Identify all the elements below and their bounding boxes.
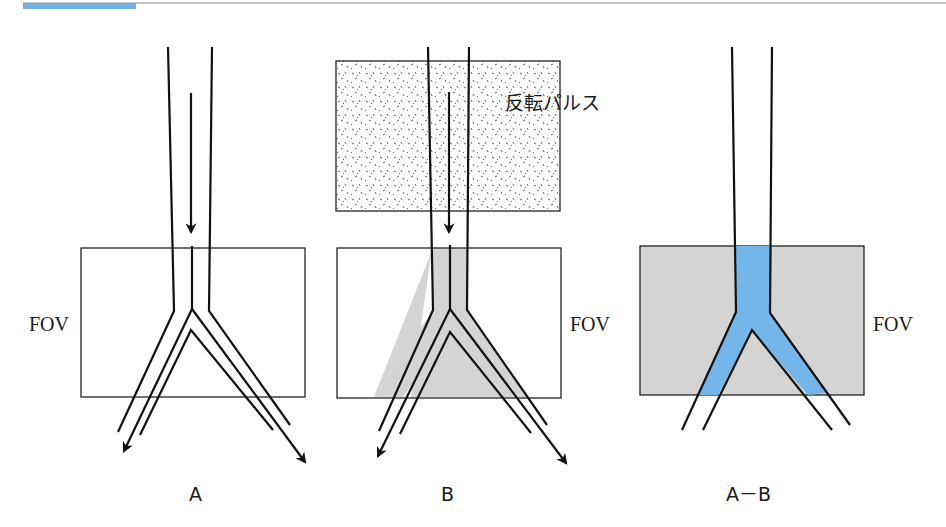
- diagram-canvas: [0, 0, 946, 527]
- fov-label-ab: FOV: [873, 313, 913, 336]
- inner-wall: [140, 330, 273, 435]
- center-flow-left: [124, 309, 192, 451]
- panel-a-minus-b: [640, 47, 864, 430]
- header-rule: [23, 3, 946, 9]
- center-flow-right: [192, 309, 305, 462]
- fov-label-b: FOV: [570, 313, 610, 336]
- inversion-pulse-label: 反転パルス: [505, 88, 600, 115]
- fov-label-a: FOV: [29, 313, 69, 336]
- caption-a: A: [189, 483, 202, 505]
- panel-a: [81, 47, 305, 462]
- caption-a-minus-b: A－B: [726, 479, 771, 506]
- caption-b: B: [441, 483, 454, 505]
- vessel-wall-left: [118, 47, 174, 432]
